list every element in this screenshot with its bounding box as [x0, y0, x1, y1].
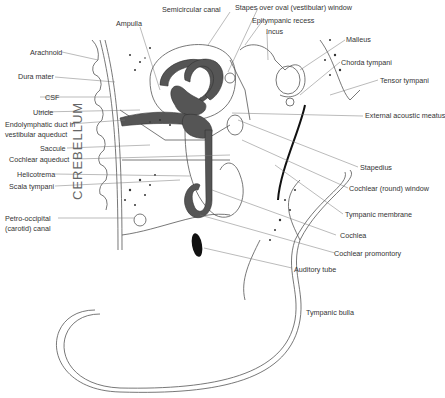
label-tympanic-bulla: Tympanic bulla — [306, 308, 354, 317]
label-semicircular-canal: Semicircular canal — [162, 5, 221, 14]
label-utricle: Utricle — [33, 108, 53, 117]
label-petro-occipital-line1: Petro-occipital — [5, 214, 51, 223]
label-endolymphatic-duct-line1: Endolymphatic duct in — [5, 120, 75, 129]
label-stapedius: Stapedius — [360, 163, 392, 172]
label-tympanic-membrane: Tympanic membrane — [345, 210, 412, 219]
label-endolymphatic-duct-line2: vestibular aqueduct — [5, 130, 67, 139]
label-cochlear-round-window: Cochlear (round) window — [349, 184, 429, 193]
label-dura-mater: Dura mater — [18, 72, 54, 81]
label-malleus: Malleus — [346, 35, 371, 44]
label-scala-tympani: Scala tympani — [9, 182, 54, 191]
label-cochlear-aqueduct: Cochlear aqueduct — [9, 155, 69, 164]
label-ampulla: Ampulla — [116, 19, 142, 28]
label-chorda-tympani: Chorda tympani — [341, 58, 392, 67]
label-tensor-tympani: Tensor tympani — [380, 76, 429, 85]
label-arachnoid: Arachnoid — [30, 48, 62, 57]
label-saccule: Saccule — [40, 144, 66, 153]
cerebellum-label: CEREBELLUM — [70, 102, 85, 200]
ear-anatomy-diagram: CEREBELLUM Arachnoid Dura mater CSF Utri… — [0, 0, 445, 398]
label-helicotrema: Helicotrema — [17, 170, 55, 179]
label-auditory-tube: Auditory tube — [294, 265, 336, 274]
label-stapes: Stapes over oval (vestibular) window — [235, 3, 352, 12]
label-incus: Incus — [266, 27, 283, 36]
label-cochlear-promontory: Cochlear promontory — [334, 249, 401, 258]
label-petro-occipital-line2: (carotid) canal — [5, 224, 51, 233]
label-csf: CSF — [45, 93, 59, 102]
label-cochlea: Cochlea — [340, 231, 366, 240]
label-external-acoustic-meatus: External acoustic meatus — [365, 111, 445, 120]
label-epitympanic-recess: Epitympanic recess — [252, 16, 314, 25]
